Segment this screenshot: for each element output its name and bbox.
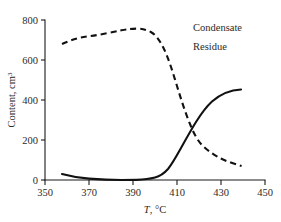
x-tick-label-390: 390 [125, 187, 141, 198]
x-axis-title: T, °C [144, 204, 166, 215]
y-axis-title: Content, cm3 [6, 72, 18, 127]
y-tick-label-600: 600 [22, 55, 38, 66]
y-tick-label-200: 200 [22, 135, 38, 146]
line-chart: 0 200 400 600 800 350 370 390 410 430 45… [0, 0, 281, 222]
x-tick-label-450: 450 [257, 187, 273, 198]
x-tick-label-410: 410 [169, 187, 185, 198]
legend-label-condensate: Condensate [193, 22, 242, 33]
x-axis-title-units: , °C [150, 204, 166, 215]
x-tick-label-370: 370 [81, 187, 97, 198]
y-axis-title-exponent: 3 [6, 72, 14, 76]
x-tick-label-350: 350 [37, 187, 53, 198]
chart-figure: 0 200 400 600 800 350 370 390 410 430 45… [0, 0, 281, 222]
y-tick-label-0: 0 [33, 175, 38, 186]
y-tick-label-800: 800 [22, 15, 38, 26]
y-axis-title-main: Content, cm [6, 76, 17, 127]
legend-label-residue: Residue [193, 41, 227, 52]
y-tick-label-400: 400 [22, 95, 38, 106]
x-tick-label-430: 430 [213, 187, 229, 198]
